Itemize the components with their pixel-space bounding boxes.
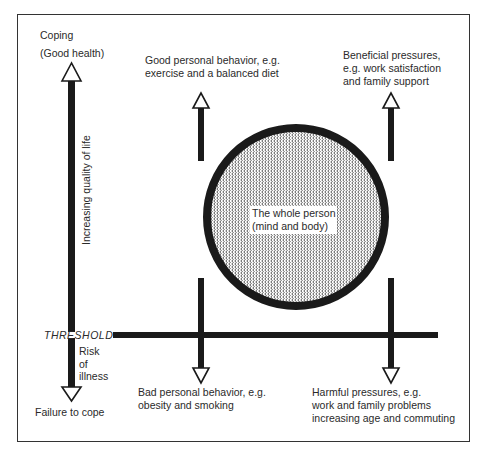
beneficial-pressures-label: Beneficial pressures, e.g. work satisfac… [343,49,441,88]
bad-behavior-label: Bad personal behavior, e.g. obesity and … [138,386,266,412]
risk-of-illness-label: Risk of illness [79,345,108,383]
failure-to-cope-label: Failure to cope [35,406,104,419]
left-axis-up-arrow [62,63,81,332]
harmful-pressures-label: Harmful pressures, e.g. work and family … [312,386,455,425]
good-behavior-label: Good personal behavior, e.g. exercise an… [145,54,280,80]
good-behavior-up-arrow [193,93,209,161]
bad-behavior-down-arrow [193,278,209,383]
good-health-label: (Good health) [40,47,104,60]
harmful-pressures-down-arrow [383,278,399,383]
increasing-quality-label: Increasing quality of life [80,135,92,245]
beneficial-pressures-up-arrow [383,93,399,161]
coping-label: Coping [40,29,73,42]
whole-person-label: The whole person (mind and body) [250,206,337,234]
threshold-label: THRESHOLD [44,329,113,342]
